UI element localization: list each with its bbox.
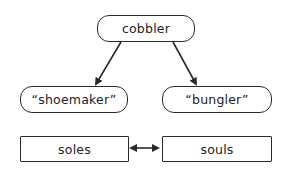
node-bungler: “bungler” <box>162 86 272 113</box>
node-cobbler-label: cobbler <box>122 21 170 36</box>
node-soles-label: soles <box>58 142 91 157</box>
edge-cobbler-to-bungler <box>173 42 196 84</box>
node-souls-label: souls <box>200 142 233 157</box>
node-cobbler: cobbler <box>97 15 195 42</box>
node-soles: soles <box>20 136 129 162</box>
node-shoemaker: “shoemaker” <box>20 86 128 113</box>
diagram-canvas: cobbler “shoemaker” “bungler” soles soul… <box>0 0 288 176</box>
node-souls: souls <box>162 136 272 162</box>
node-bungler-label: “bungler” <box>185 92 248 107</box>
edge-cobbler-to-shoemaker <box>96 42 121 84</box>
node-shoemaker-label: “shoemaker” <box>32 92 117 107</box>
